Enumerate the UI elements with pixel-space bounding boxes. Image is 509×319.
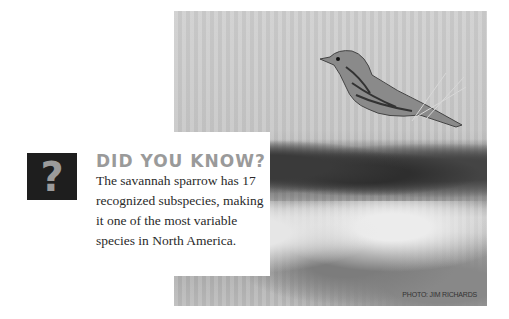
sparrow-illustration <box>316 47 466 137</box>
question-mark-icon: ? <box>27 153 77 200</box>
callout-body: The savannah sparrow has 17 recognized s… <box>96 171 266 251</box>
question-glyph: ? <box>40 157 63 197</box>
photo-credit: PHOTO: JIM RICHARDS <box>402 291 477 298</box>
callout-heading: DID YOU KNOW? <box>96 151 266 171</box>
